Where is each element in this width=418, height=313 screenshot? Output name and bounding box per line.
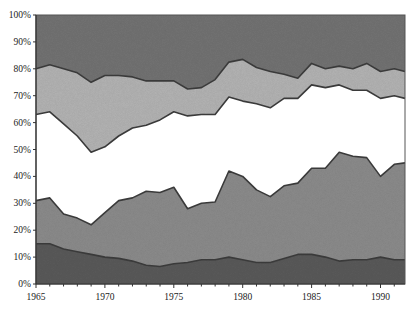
- y-tick-label: 100%: [9, 10, 31, 20]
- x-tick-label: 1990: [371, 292, 390, 302]
- x-tick-label: 1970: [95, 292, 114, 302]
- y-tick-label: 60%: [14, 118, 32, 128]
- x-tick-label: 1980: [233, 292, 252, 302]
- y-tick-label: 30%: [14, 198, 32, 208]
- y-tick-label: 80%: [14, 64, 32, 74]
- x-tick-label: 1975: [164, 292, 183, 302]
- y-tick-label: 70%: [14, 91, 32, 101]
- y-tick-label: 10%: [14, 252, 32, 262]
- x-tick-label: 1985: [302, 292, 321, 302]
- y-tick-label: 0%: [18, 279, 31, 289]
- x-tick-label: 1965: [27, 292, 46, 302]
- area-layers: [36, 15, 405, 284]
- y-tick-label: 40%: [14, 171, 32, 181]
- y-tick-label: 90%: [14, 37, 32, 47]
- y-tick-label: 50%: [14, 145, 32, 155]
- stacked-area-chart: 0%10%20%30%40%50%60%70%80%90%100%1965197…: [0, 0, 418, 313]
- y-tick-label: 20%: [14, 225, 32, 235]
